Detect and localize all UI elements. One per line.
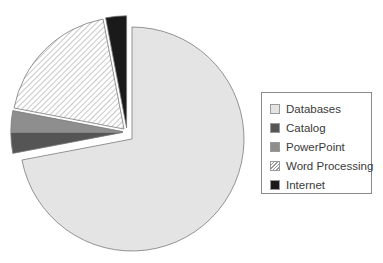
legend-item-catalog: Catalog bbox=[262, 118, 371, 137]
legend-label: Catalog bbox=[286, 122, 326, 134]
legend-swatch-internet bbox=[270, 180, 280, 190]
pie-slice-word-processing bbox=[14, 19, 124, 129]
pie-chart: Databases Catalog PowerPoint Word Proces… bbox=[0, 0, 383, 263]
legend-item-word-processing: Word Processing bbox=[262, 156, 371, 175]
legend-item-internet: Internet bbox=[262, 175, 371, 194]
legend-label: PowerPoint bbox=[286, 141, 345, 153]
legend-item-databases: Databases bbox=[262, 99, 371, 118]
legend-swatch-catalog bbox=[270, 123, 280, 133]
legend: Databases Catalog PowerPoint Word Proces… bbox=[261, 92, 372, 194]
legend-label: Word Processing bbox=[286, 160, 373, 172]
legend-label: Databases bbox=[286, 103, 341, 115]
legend-item-powerpoint: PowerPoint bbox=[262, 137, 371, 156]
legend-swatch-powerpoint bbox=[270, 142, 280, 152]
legend-label: Internet bbox=[286, 179, 325, 191]
pie-slices bbox=[11, 16, 244, 251]
legend-swatch-databases bbox=[270, 104, 280, 114]
legend-swatch-word-processing bbox=[270, 161, 280, 171]
